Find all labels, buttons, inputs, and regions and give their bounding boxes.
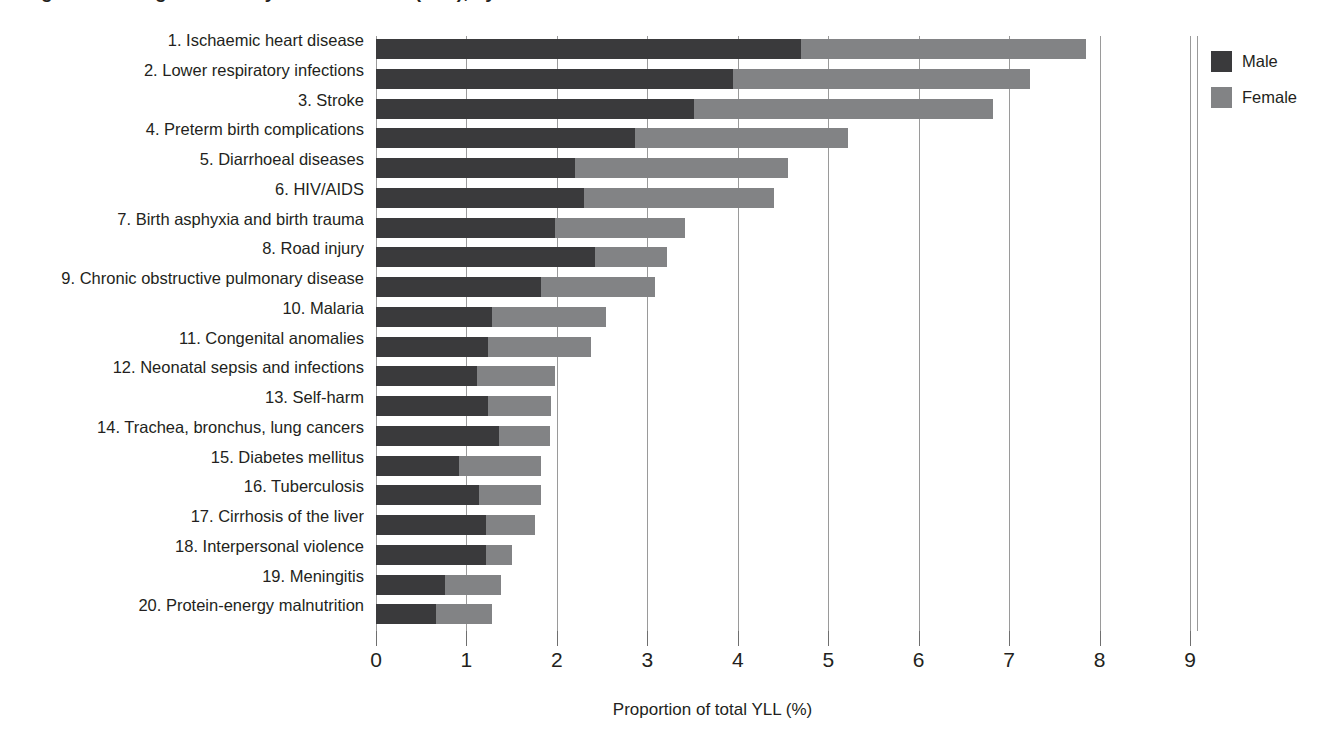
bar-segment-male	[376, 39, 801, 59]
category-label: 19. Meningitis	[34, 567, 364, 586]
legend-divider	[1197, 36, 1198, 631]
bar-segment-male	[376, 515, 486, 535]
category-label: 2. Lower respiratory infections	[34, 61, 364, 80]
legend-label: Male	[1242, 52, 1278, 71]
bar-segment-female	[595, 247, 667, 267]
bar-segment-male	[376, 188, 584, 208]
x-tick-label: 8	[1080, 648, 1120, 672]
x-tick-label: 1	[446, 648, 486, 672]
bar-segment-male	[376, 99, 694, 119]
x-tick-8	[1100, 631, 1101, 646]
plot-area	[376, 36, 1190, 631]
x-tick-label: 9	[1170, 648, 1210, 672]
bar-segment-female	[492, 307, 606, 327]
bar-row	[376, 485, 541, 505]
bar-segment-male	[376, 218, 555, 238]
bar-segment-male	[376, 604, 436, 624]
legend-swatch-icon	[1211, 51, 1232, 72]
x-tick-label: 0	[356, 648, 396, 672]
bar-segment-female	[635, 128, 848, 148]
bar-row	[376, 39, 1086, 59]
bar-row	[376, 218, 685, 238]
bar-segment-female	[488, 337, 591, 357]
category-label: 16. Tuberculosis	[34, 477, 364, 496]
x-tick-5	[828, 631, 829, 646]
chart-legend: MaleFemale	[1197, 36, 1321, 156]
legend-label: Female	[1242, 88, 1297, 107]
category-label: 4. Preterm birth complications	[34, 120, 364, 139]
x-tick-label: 3	[627, 648, 667, 672]
x-axis-title-text: Proportion of total YLL (%)	[613, 700, 812, 720]
bar-segment-male	[376, 426, 499, 446]
legend-swatch-icon	[1211, 87, 1232, 108]
gridline-9	[1190, 36, 1191, 631]
bar-row	[376, 69, 1030, 89]
bar-row	[376, 188, 774, 208]
category-label: 13. Self-harm	[34, 388, 364, 407]
category-label: 5. Diarrhoeal diseases	[34, 150, 364, 169]
x-tick-1	[466, 631, 467, 646]
bar-segment-female	[459, 456, 540, 476]
gridline-0	[376, 36, 377, 631]
category-label: 12. Neonatal sepsis and infections	[34, 358, 364, 377]
x-tick-label: 2	[537, 648, 577, 672]
legend-item-male[interactable]: Male	[1211, 50, 1278, 72]
gridline-6	[919, 36, 920, 631]
bar-row	[376, 575, 501, 595]
bar-row	[376, 128, 848, 148]
bar-segment-female	[541, 277, 655, 297]
bar-segment-male	[376, 307, 492, 327]
bar-segment-male	[376, 545, 486, 565]
x-tick-6	[919, 631, 920, 646]
category-label: 8. Road injury	[34, 239, 364, 258]
bar-row	[376, 307, 606, 327]
bar-row	[376, 158, 788, 178]
bar-segment-male	[376, 69, 733, 89]
gridline-4	[738, 36, 739, 631]
bar-row	[376, 366, 555, 386]
category-label: 9. Chronic obstructive pulmonary disease	[34, 269, 364, 288]
bar-segment-female	[479, 485, 541, 505]
bar-segment-female	[486, 515, 535, 535]
bar-segment-female	[733, 69, 1030, 89]
bar-segment-female	[694, 99, 992, 119]
bar-segment-male	[376, 247, 595, 267]
bar-row	[376, 545, 512, 565]
x-tick-0	[376, 631, 377, 646]
bar-row	[376, 99, 993, 119]
gridline-7	[1009, 36, 1010, 631]
bar-segment-male	[376, 456, 459, 476]
bar-segment-female	[445, 575, 501, 595]
bar-segment-female	[486, 545, 511, 565]
bar-segment-female	[575, 158, 788, 178]
bar-row	[376, 247, 667, 267]
bar-row	[376, 426, 550, 446]
bar-segment-male	[376, 158, 575, 178]
category-label: 7. Birth asphyxia and birth trauma	[34, 210, 364, 229]
category-label: 6. HIV/AIDS	[34, 180, 364, 199]
x-tick-label: 7	[989, 648, 1029, 672]
category-label: 18. Interpersonal violence	[34, 537, 364, 556]
category-label: 10. Malaria	[34, 299, 364, 318]
legend-item-female[interactable]: Female	[1211, 86, 1297, 108]
category-label: 3. Stroke	[34, 91, 364, 110]
bar-segment-male	[376, 128, 635, 148]
x-tick-7	[1009, 631, 1010, 646]
category-label: 1. Ischaemic heart disease	[34, 31, 364, 50]
bar-segment-female	[477, 366, 555, 386]
gridline-5	[828, 36, 829, 631]
category-label: 14. Trachea, bronchus, lung cancers	[34, 418, 364, 437]
x-tick-label: 6	[899, 648, 939, 672]
bar-row	[376, 604, 492, 624]
x-tick-label: 4	[718, 648, 758, 672]
stacked-bar-chart: 1. Ischaemic heart disease2. Lower respi…	[0, 0, 1321, 751]
category-label: 11. Congenital anomalies	[34, 329, 364, 348]
category-label: 15. Diabetes mellitus	[34, 448, 364, 467]
x-tick-label: 5	[808, 648, 848, 672]
bar-segment-male	[376, 575, 445, 595]
bar-row	[376, 456, 541, 476]
bar-segment-female	[488, 396, 551, 416]
x-tick-3	[647, 631, 648, 646]
category-label: 20. Protein-energy malnutrition	[34, 596, 364, 615]
bar-segment-female	[555, 218, 685, 238]
